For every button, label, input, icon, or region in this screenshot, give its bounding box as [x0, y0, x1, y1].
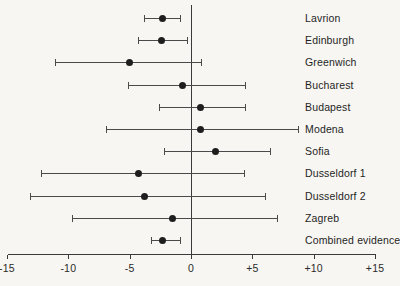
ci-lower-cap: [144, 15, 145, 22]
x-tick-label: +10: [294, 262, 334, 274]
x-tick: [252, 255, 253, 259]
ci-lower-cap: [128, 82, 129, 89]
estimate-marker: [126, 59, 133, 66]
x-tick: [191, 255, 192, 259]
study-label: Budapest: [305, 101, 351, 113]
ci-lower-cap: [72, 215, 73, 222]
study-label: Modena: [305, 123, 344, 135]
study-label: Dusseldorf 2: [305, 190, 366, 202]
x-tick-label: +15: [355, 262, 395, 274]
x-tick: [7, 255, 8, 259]
study-label: Sofia: [305, 145, 330, 157]
ci-upper-cap: [187, 37, 188, 44]
ci-lower-cap: [30, 193, 31, 200]
estimate-marker: [159, 15, 166, 22]
forest-plot: -15-10-50+5+10+15 LavrionEdinburghGreenw…: [0, 0, 400, 286]
estimate-marker: [212, 148, 219, 155]
x-tick-label: -10: [48, 262, 88, 274]
x-tick-label: -15: [0, 262, 27, 274]
x-tick-label: -5: [110, 262, 150, 274]
ci-lower-cap: [138, 37, 139, 44]
x-tick: [68, 255, 69, 259]
ci-lower-cap: [151, 237, 152, 244]
ci-upper-cap: [201, 59, 202, 66]
estimate-marker: [197, 104, 204, 111]
study-label: Zagreb: [305, 212, 339, 224]
study-label: Greenwich: [305, 56, 357, 68]
confidence-interval-line: [128, 85, 245, 86]
x-tick-label: 0: [171, 262, 211, 274]
x-tick-label: +5: [232, 262, 272, 274]
study-label: Dusseldorf 1: [305, 167, 366, 179]
estimate-marker: [197, 126, 204, 133]
ci-lower-cap: [41, 170, 42, 177]
ci-upper-cap: [180, 237, 181, 244]
x-axis-line: [8, 254, 376, 255]
ci-lower-cap: [106, 126, 107, 133]
estimate-marker: [159, 237, 166, 244]
study-label: Edinburgh: [305, 34, 354, 46]
ci-upper-cap: [244, 170, 245, 177]
ci-upper-cap: [265, 193, 266, 200]
study-label: Combined evidence: [305, 234, 400, 246]
ci-lower-cap: [55, 59, 56, 66]
ci-upper-cap: [298, 126, 299, 133]
ci-lower-cap: [164, 148, 165, 155]
study-label: Lavrion: [305, 12, 341, 24]
estimate-marker: [141, 193, 148, 200]
ci-upper-cap: [245, 82, 246, 89]
x-tick: [130, 255, 131, 259]
x-tick: [314, 255, 315, 259]
ci-upper-cap: [277, 215, 278, 222]
estimate-marker: [179, 82, 186, 89]
ci-upper-cap: [245, 104, 246, 111]
estimate-marker: [158, 37, 165, 44]
ci-upper-cap: [180, 15, 181, 22]
study-label: Bucharest: [305, 79, 354, 91]
ci-upper-cap: [270, 148, 271, 155]
estimate-marker: [135, 170, 142, 177]
x-tick: [375, 255, 376, 259]
estimate-marker: [169, 215, 176, 222]
ci-lower-cap: [159, 104, 160, 111]
confidence-interval-line: [41, 173, 243, 174]
